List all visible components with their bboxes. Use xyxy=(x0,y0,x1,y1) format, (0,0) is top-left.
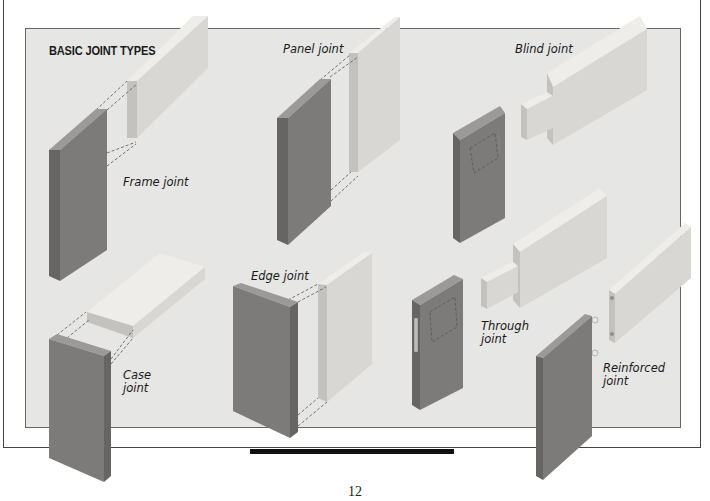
label-reinforced-joint: Reinforced joint xyxy=(603,362,665,388)
label-edge-joint: Edge joint xyxy=(251,270,309,283)
label-case-joint: Case joint xyxy=(123,369,151,395)
figure-title: BASIC JOINT TYPES xyxy=(49,43,155,58)
label-through-joint: Through joint xyxy=(481,320,529,346)
footer-rule xyxy=(250,449,454,454)
label-reinforced-line2: joint xyxy=(603,375,665,388)
joint-illustrations: .dk { fill:#7d7b79; } .dks { fill:#67656… xyxy=(0,0,710,501)
label-panel-joint: Panel joint xyxy=(283,43,343,56)
page-number: 12 xyxy=(0,484,710,500)
label-case-line2: joint xyxy=(123,382,151,395)
label-frame-joint: Frame joint xyxy=(123,176,189,189)
label-blind-joint: Blind joint xyxy=(515,43,573,56)
label-through-line2: joint xyxy=(481,333,529,346)
